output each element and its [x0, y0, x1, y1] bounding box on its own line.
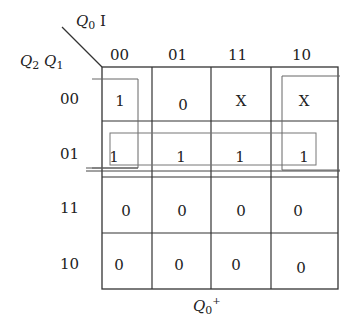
- title-var: Q: [193, 297, 205, 315]
- cell-r11-c01: 0: [167, 196, 197, 226]
- row-var-q2: Q: [20, 52, 32, 70]
- cell-r10-c11: 0: [221, 250, 251, 280]
- row-header: 10: [60, 257, 79, 272]
- cell-r00-c11: X: [226, 86, 256, 116]
- cell-r10-c10: 0: [286, 253, 316, 283]
- col-header: 10: [292, 48, 311, 63]
- cell-r00-c00: 1: [105, 86, 135, 116]
- row-var-q1: Q: [44, 52, 56, 70]
- row-variables-label: Q2 Q1: [20, 54, 63, 71]
- col-var-i: I: [100, 12, 106, 30]
- cell-r00-c01: 0: [168, 90, 198, 120]
- cell-r11-c11: 0: [226, 196, 256, 226]
- cell-r01-c10: 1: [289, 142, 319, 172]
- col-var-q: Q: [76, 12, 88, 30]
- cell-r01-c01: 1: [166, 142, 196, 172]
- cell-r01-c00: 1: [104, 142, 124, 172]
- cell-r11-c10: 0: [283, 196, 313, 226]
- cell-r11-c00: 0: [111, 196, 141, 226]
- title-sup: +: [212, 295, 220, 306]
- col-header: 01: [168, 48, 187, 63]
- cell-r10-c00: 0: [104, 250, 134, 280]
- row-var-q1-sub: 1: [56, 59, 63, 72]
- row-header: 00: [60, 92, 79, 107]
- row-var-q2-sub: 2: [32, 59, 39, 72]
- row-header: 01: [60, 147, 79, 162]
- cell-r10-c01: 0: [164, 250, 194, 280]
- group-outline-row01: [110, 133, 316, 165]
- column-variables-label: Q0 I: [76, 14, 106, 31]
- col-header: 11: [228, 48, 247, 63]
- map-title: Q0+: [193, 296, 221, 316]
- row-header: 11: [60, 201, 79, 216]
- col-var-q-sub: 0: [88, 19, 95, 32]
- corner-diagonal: [62, 27, 102, 67]
- cell-r01-c11: 1: [225, 142, 255, 172]
- col-header: 00: [110, 48, 129, 63]
- cell-r00-c10: X: [289, 86, 319, 116]
